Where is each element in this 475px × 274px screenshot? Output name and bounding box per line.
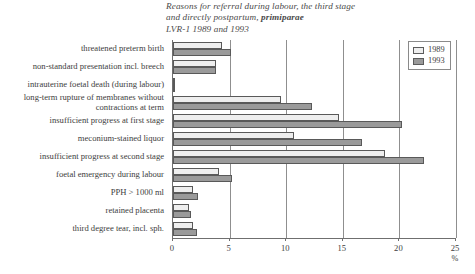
bar-1993	[173, 139, 362, 146]
tick-mark-10	[285, 238, 286, 241]
bar-group	[173, 96, 456, 110]
category-label: third degree tear, incl. sph.	[0, 224, 168, 234]
bar-1993	[173, 175, 232, 182]
bar-1993	[173, 193, 198, 200]
bar-1993	[173, 229, 197, 236]
bar-1993	[173, 121, 402, 128]
bar-1993	[173, 157, 424, 164]
bar-1989	[173, 204, 189, 211]
category-label: intrauterine foetal death (during labour…	[0, 80, 168, 90]
chart-figure: Reasons for referral during labour, the …	[0, 0, 475, 274]
bar-1993	[173, 103, 312, 110]
bar-group	[173, 60, 456, 74]
bar-1993	[173, 49, 231, 56]
tick-mark-25	[455, 238, 456, 241]
chart-title: Reasons for referral during labour, the …	[166, 1, 466, 35]
bar-1989	[173, 42, 222, 49]
category-label: insufficient progress at first stage	[0, 116, 168, 126]
tick-mark-15	[342, 238, 343, 241]
tick-mark-5	[229, 238, 230, 241]
bar-1989	[173, 132, 294, 139]
bar-1989	[173, 96, 281, 103]
category-label: meconium-stained liquor	[0, 134, 168, 144]
chart-title-line-3: LVR-1 1989 and 1993	[166, 24, 466, 35]
bar-1989	[173, 78, 175, 85]
x-tick-label: 10	[281, 243, 290, 253]
chart-title-line-1: Reasons for referral during labour, the …	[166, 1, 355, 11]
bar-group	[173, 42, 456, 56]
category-label: retained placenta	[0, 206, 168, 216]
category-label: long-term rupture of membranes without c…	[0, 93, 168, 112]
bar-1993	[173, 85, 175, 92]
bar-group	[173, 204, 456, 218]
tick-mark-20	[398, 238, 399, 241]
tick-mark-0	[172, 238, 173, 241]
x-tick-label: 25	[451, 243, 460, 253]
category-label: non-standard presentation incl. breech	[0, 62, 168, 72]
bar-1989	[173, 186, 193, 193]
axis-unit-label: %	[452, 254, 459, 263]
bar-group	[173, 114, 456, 128]
category-label: insufficient progress at second stage	[0, 152, 168, 162]
bar-1989	[173, 150, 385, 157]
bar-group	[173, 168, 456, 182]
bar-1989	[173, 222, 193, 229]
bar-group	[173, 132, 456, 146]
x-tick-label: 5	[226, 243, 230, 253]
x-tick-label: 15	[338, 243, 347, 253]
category-label: foetal emergency during labour	[0, 170, 168, 180]
category-label: PPH > 1000 ml	[0, 188, 168, 198]
bar-group	[173, 78, 456, 92]
bar-1989	[173, 60, 216, 67]
x-tick-label: 0	[170, 243, 174, 253]
category-axis-labels: threatened preterm birthnon-standard pre…	[0, 40, 168, 238]
bar-1993	[173, 67, 216, 74]
bar-1989	[173, 168, 219, 175]
bar-1993	[173, 211, 191, 218]
bar-group	[173, 222, 456, 236]
bar-group	[173, 186, 456, 200]
category-label: threatened preterm birth	[0, 44, 168, 54]
x-axis-line	[172, 238, 456, 239]
gridline-25	[456, 40, 457, 238]
bar-1989	[173, 114, 339, 121]
chart-title-line-2-prefix: and directly postpartum,	[166, 12, 261, 22]
bar-group	[173, 150, 456, 164]
x-tick-label: 20	[394, 243, 403, 253]
plot-area	[172, 40, 456, 238]
value-axis-labels: 0510152025	[0, 243, 475, 257]
chart-title-emphasis: primiparae	[261, 12, 304, 22]
